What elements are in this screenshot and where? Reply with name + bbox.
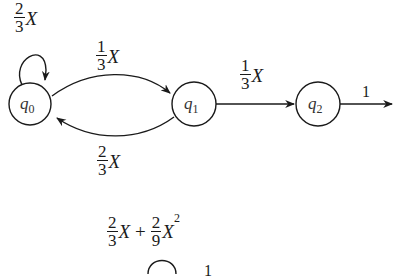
edge-q0-q0 [19, 55, 46, 85]
frac-num: 2 [151, 214, 162, 232]
second-loop-label: 23X+29X2 [107, 212, 180, 250]
frac-num: 2 [97, 143, 108, 161]
frac-den: 3 [15, 18, 24, 36]
plus-op: + [135, 221, 146, 242]
state-sub: 2 [317, 102, 323, 116]
frac-den: 3 [97, 56, 106, 74]
second-state-loop [148, 261, 176, 275]
state-sub: 1 [193, 102, 199, 116]
second-output-label: 1 [204, 262, 212, 280]
edge-label-q2-out: 1 [362, 83, 370, 101]
state-q1-label: q1 [184, 94, 199, 117]
frac-var: X [109, 151, 121, 172]
edge-label-q1-q2: 13X [240, 57, 263, 93]
edge-q0-q1 [52, 75, 170, 96]
frac-num: 2 [14, 0, 25, 18]
frac-var: X [26, 8, 38, 29]
frac-den: 9 [152, 232, 161, 250]
frac-den: 3 [98, 161, 107, 179]
edge-label-q1-q0: 23X [97, 143, 120, 179]
state-name: q [20, 94, 29, 113]
state-sub: 0 [29, 102, 35, 116]
exponent: 2 [174, 211, 180, 225]
frac-var: X [252, 65, 264, 86]
frac-var: X [119, 221, 131, 242]
edge-label-q0-q0: 23X [14, 0, 37, 36]
edge-label-q0-q1: 13X [96, 38, 119, 74]
state-name: q [308, 94, 317, 113]
frac-var: X [108, 46, 120, 67]
frac-den: 3 [241, 75, 250, 93]
edge-q1-q0 [57, 117, 174, 136]
frac-num: 2 [107, 214, 118, 232]
frac-den: 3 [108, 232, 117, 250]
frac-num: 1 [240, 57, 251, 75]
state-name: q [184, 94, 193, 113]
frac-var: X [162, 221, 174, 242]
state-q0-label: q0 [20, 94, 35, 117]
frac-num: 1 [96, 38, 107, 56]
state-q2-label: q2 [308, 94, 323, 117]
